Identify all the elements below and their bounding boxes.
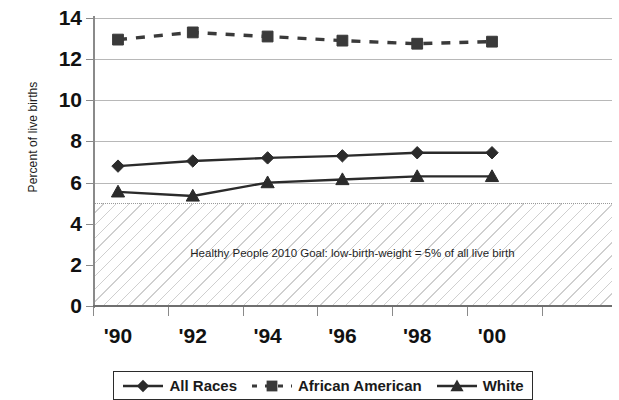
x-tick-label: '94 <box>233 325 303 346</box>
legend-label: All Races <box>169 377 237 394</box>
y-tick-label: 8 <box>36 130 82 151</box>
legend-entry[interactable]: African American <box>251 377 422 394</box>
gridline <box>93 18 612 19</box>
x-tick-mark <box>467 307 468 316</box>
x-tick-label: '00 <box>457 325 527 346</box>
y-tick-label: 6 <box>36 172 82 193</box>
y-tick-label: 14 <box>36 7 82 28</box>
y-axis-tick-labels: 02468101214 <box>20 0 82 400</box>
square-marker <box>251 379 293 393</box>
chart-legend: All RacesAfrican AmericanWhite <box>113 371 533 400</box>
diamond-marker <box>122 379 164 393</box>
x-tick-mark <box>93 307 94 316</box>
y-tick-label: 0 <box>36 295 82 316</box>
y-tick-label: 12 <box>36 48 82 69</box>
legend-label: African American <box>298 377 422 394</box>
gridline <box>93 59 612 60</box>
x-tick-label: '96 <box>307 325 377 346</box>
triangle-marker <box>436 379 478 393</box>
legend-entry[interactable]: All Races <box>122 377 237 394</box>
y-tick-label: 4 <box>36 213 82 234</box>
low-birth-weight-line-chart: Percent of live births 02468101214 Healt… <box>0 0 619 400</box>
legend-entry[interactable]: White <box>436 377 524 394</box>
x-tick-mark <box>392 307 393 316</box>
x-tick-label: '98 <box>382 325 452 346</box>
x-tick-label: '92 <box>158 325 228 346</box>
x-tick-mark <box>168 307 169 316</box>
y-axis-line <box>93 16 95 308</box>
legend-label: White <box>483 377 524 394</box>
x-tick-mark <box>542 307 543 316</box>
y-tick-label: 2 <box>36 254 82 275</box>
gridline <box>93 141 612 142</box>
gridline <box>93 100 612 101</box>
x-tick-label: '90 <box>83 325 153 346</box>
x-axis-line <box>93 305 612 307</box>
goal-annotation-label: Healthy People 2010 Goal: low-birth-weig… <box>93 247 612 259</box>
x-tick-mark <box>243 307 244 316</box>
y-tick-label: 10 <box>36 89 82 110</box>
plot-area: Healthy People 2010 Goal: low-birth-weig… <box>93 18 612 306</box>
gridline <box>93 183 612 184</box>
x-tick-mark <box>317 307 318 316</box>
